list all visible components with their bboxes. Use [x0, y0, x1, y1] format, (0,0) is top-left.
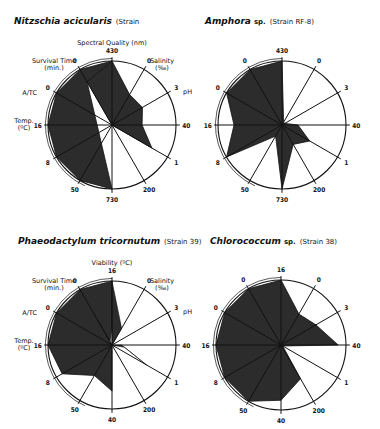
- salinity-unit: (‰): [155, 64, 169, 72]
- tick-label: 0: [243, 57, 247, 65]
- tick-label: 200: [313, 186, 325, 194]
- tick-label: 730: [106, 196, 118, 204]
- tick-label: 50: [239, 407, 247, 415]
- tick-label: 0: [241, 276, 245, 284]
- tick-label: 0: [46, 84, 50, 92]
- tick-label: 40: [352, 122, 360, 130]
- survival-unit: (min.): [44, 284, 63, 292]
- spoke: [112, 345, 146, 404]
- radar-charts: 4300340120073050816004300340120073050816…: [0, 0, 380, 429]
- tick-label: 16: [204, 122, 212, 130]
- tick-label: 430: [106, 47, 118, 55]
- tick-label: 40: [182, 342, 190, 350]
- tick-label: 1: [344, 159, 348, 167]
- radar-area: [48, 281, 112, 391]
- tick-label: 16: [34, 122, 42, 130]
- tick-label: 0: [46, 304, 50, 312]
- tick-label: 40: [352, 342, 360, 350]
- top-axis-title: Spectral Quality (nm): [77, 39, 147, 47]
- spoke: [112, 345, 171, 379]
- radar-area: [216, 280, 338, 401]
- tick-label: 50: [71, 406, 79, 414]
- tick-label: 3: [174, 84, 178, 92]
- tick-label: 16: [202, 342, 210, 350]
- tick-label: 8: [46, 159, 50, 167]
- salinity-unit: (‰): [155, 284, 169, 292]
- tick-label: 50: [71, 186, 79, 194]
- tick-label: 16: [108, 267, 116, 275]
- tick-label: 16: [34, 342, 42, 350]
- tick-label: 3: [174, 304, 178, 312]
- tick-label: 730: [276, 196, 288, 204]
- tick-label: 1: [174, 379, 178, 387]
- temp-unit: (ºC): [18, 344, 31, 352]
- tick-label: 50: [241, 186, 249, 194]
- tick-label: 16: [277, 266, 285, 274]
- tick-label: 430: [276, 47, 288, 55]
- radar-chart-4: 1603401200405081600: [202, 266, 361, 425]
- tick-label: 40: [182, 122, 190, 130]
- tick-label: 1: [344, 379, 348, 387]
- spoke: [282, 66, 316, 125]
- tick-label: 8: [214, 379, 218, 387]
- tick-label: 8: [216, 159, 220, 167]
- atc-title: A/TC: [22, 89, 37, 97]
- radar-area: [112, 281, 122, 345]
- tick-label: 0: [317, 57, 321, 65]
- tick-label: 0: [214, 304, 218, 312]
- survival-unit: (min.): [44, 64, 63, 72]
- ph-title: pH: [183, 88, 192, 96]
- tick-label: 40: [277, 417, 285, 425]
- tick-label: 8: [46, 379, 50, 387]
- top-axis-title: Viability (ºC): [92, 259, 133, 267]
- tick-label: 3: [344, 304, 348, 312]
- tick-label: 200: [313, 407, 325, 415]
- tick-label: 200: [143, 186, 155, 194]
- tick-label: 3: [344, 84, 348, 92]
- temp-unit: (ºC): [18, 124, 31, 132]
- tick-label: 1: [174, 159, 178, 167]
- radar-chart-2: 430034012007305081600: [204, 47, 361, 203]
- tick-label: 0: [317, 276, 321, 284]
- ph-title: pH: [183, 308, 192, 316]
- tick-label: 40: [108, 416, 116, 424]
- atc-title: A/TC: [22, 309, 37, 317]
- tick-label: 0: [216, 84, 220, 92]
- spoke: [282, 91, 341, 125]
- tick-label: 200: [143, 406, 155, 414]
